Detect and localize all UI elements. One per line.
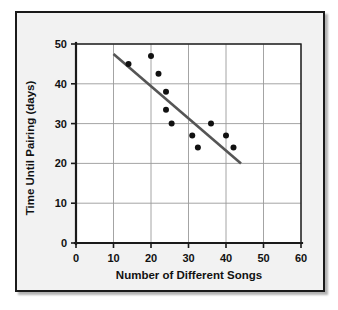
x-axis-title: Number of Different Songs (116, 269, 262, 281)
figure-root: 010203040500102030405060 Time Until Pair… (0, 0, 338, 310)
data-point (156, 71, 162, 77)
x-tick-label: 0 (73, 252, 79, 264)
scatter-plot: 010203040500102030405060 Time Until Pair… (17, 13, 323, 290)
data-point (231, 144, 237, 150)
data-point (189, 133, 195, 139)
data-point (126, 61, 132, 67)
x-tick-label: 30 (182, 252, 194, 264)
x-tick-label: 40 (220, 252, 232, 264)
x-tick-label: 20 (145, 252, 157, 264)
data-point (195, 144, 201, 150)
y-axis-title: Time Until Pairing (days) (24, 81, 36, 216)
y-tick-label: 30 (55, 118, 67, 130)
y-tick-label: 50 (55, 38, 67, 50)
data-point (163, 89, 169, 95)
x-tick-label: 50 (257, 252, 269, 264)
data-point (223, 133, 229, 139)
y-tick-label: 40 (55, 78, 67, 90)
data-point (208, 121, 214, 127)
y-tick-label: 0 (61, 237, 67, 249)
chart-frame: 010203040500102030405060 Time Until Pair… (15, 11, 325, 292)
data-point (169, 121, 175, 127)
data-point (148, 53, 154, 59)
x-tick-label: 10 (107, 252, 119, 264)
x-tick-label: 60 (295, 252, 307, 264)
data-point (163, 107, 169, 113)
y-tick-label: 10 (55, 197, 67, 209)
y-tick-label: 20 (55, 157, 67, 169)
